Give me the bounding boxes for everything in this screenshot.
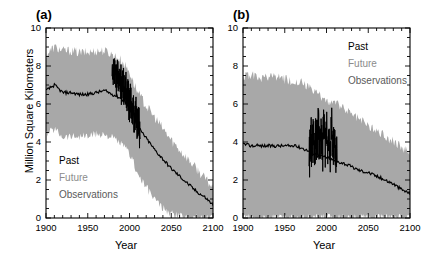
y-tick-label: 0 bbox=[36, 212, 41, 223]
panel-a-legend-past: Past bbox=[59, 155, 79, 166]
y-tick-label: 6 bbox=[36, 98, 41, 109]
panel-b-legend-future: Future bbox=[348, 58, 377, 69]
panel-b-legend-observations: Observations bbox=[348, 75, 407, 86]
panel-b-label: (b) bbox=[233, 7, 250, 22]
y-tick-label: 4 bbox=[233, 136, 238, 147]
y-tick-label: 4 bbox=[36, 136, 41, 147]
x-tick-label: 1900 bbox=[35, 222, 56, 233]
x-tick-label: 2000 bbox=[316, 222, 337, 233]
panel-a-x-axis-title: Year bbox=[96, 239, 156, 251]
x-tick-label: 1950 bbox=[274, 222, 295, 233]
y-tick-label: 2 bbox=[233, 174, 238, 185]
x-tick-label: 2000 bbox=[119, 222, 140, 233]
y-tick-label: 6 bbox=[233, 98, 238, 109]
x-tick-label: 1950 bbox=[77, 222, 98, 233]
x-tick-label: 2100 bbox=[202, 222, 223, 233]
y-tick-label: 10 bbox=[227, 22, 238, 33]
y-tick-label: 8 bbox=[233, 60, 238, 71]
x-tick-label: 2100 bbox=[399, 222, 420, 233]
y-tick-label: 8 bbox=[36, 60, 41, 71]
x-tick-label: 2050 bbox=[161, 222, 182, 233]
panel-a-legend-future: Future bbox=[59, 172, 88, 183]
x-tick-label: 2050 bbox=[358, 222, 379, 233]
x-tick-label: 1900 bbox=[232, 222, 253, 233]
panel-a-legend-observations: Observations bbox=[59, 189, 118, 200]
y-tick-label: 2 bbox=[36, 174, 41, 185]
panel-b-legend-past: Past bbox=[348, 41, 368, 52]
y-tick-label: 0 bbox=[233, 212, 238, 223]
panel-a-label: (a) bbox=[36, 7, 52, 22]
y-axis-title: Million Square Kilometers bbox=[23, 26, 35, 196]
sea-ice-extent-figure: 19001950200020502100 0246810 19001950200… bbox=[0, 0, 439, 261]
panel-b-x-axis-title: Year bbox=[294, 239, 354, 251]
